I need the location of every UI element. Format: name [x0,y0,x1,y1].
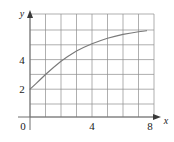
plot-area: y x 0 4 8 2 4 [0,0,174,142]
y-axis [27,10,33,130]
grid-vertical-lines [30,14,154,117]
y-tick-label-4: 4 [19,54,25,66]
y-axis-label: y [19,8,25,19]
chart-figure: y x 0 4 8 2 4 [0,0,174,142]
x-tick-label-8: 8 [147,120,153,132]
x-tick-label-4: 4 [89,120,95,132]
y-tick-label-2: 2 [19,83,25,95]
x-axis-arrow-icon [153,114,161,120]
x-axis-label: x [163,115,169,126]
origin-tick-label: 0 [20,120,26,132]
